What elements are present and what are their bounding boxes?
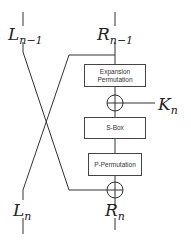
expansion-label-line1: Expansion [100,68,130,76]
p-permutation-label: P-Permutation [94,161,136,169]
p-permutation-box: P-Permutation [88,153,142,176]
sbox-box: S-Box [84,117,146,139]
l-output-label: Ln [13,202,31,222]
sbox-label: S-Box [106,124,124,132]
key-label: Kn [158,96,178,116]
r-input-label: Rn−1 [97,26,133,46]
expansion-label-line2: Permutation [97,76,132,84]
r-output-label: Rn [105,202,125,222]
l-input-label: Ln−1 [8,26,43,46]
expansion-permutation-box: Expansion Permutation [84,64,146,87]
